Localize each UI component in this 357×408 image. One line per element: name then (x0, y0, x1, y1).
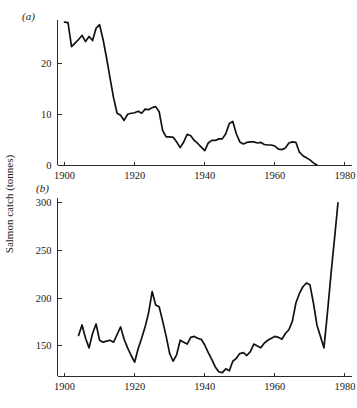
y-tick-label: 0 (46, 160, 51, 171)
figure-root: Salmon catch (tonnes) (a) 19001920194019… (0, 0, 357, 408)
panel-a-label: (a) (22, 10, 35, 23)
panel-a: (a) 1900192019401960198001020 (22, 10, 355, 181)
salmon-catch-figure: Salmon catch (tonnes) (a) 19001920194019… (0, 0, 357, 408)
y-tick-label: 150 (36, 340, 52, 351)
x-tick-label: 1980 (334, 170, 355, 181)
y-tick-label: 300 (36, 197, 52, 208)
x-tick-label: 1980 (334, 381, 355, 392)
panel-a-tick-labels: 1900192019401960198001020 (41, 58, 355, 181)
y-tick-label: 200 (36, 293, 52, 304)
panel-a-ticks (58, 63, 345, 165)
panel-b-axes (58, 198, 353, 377)
x-tick-label: 1960 (264, 381, 285, 392)
x-tick-label: 1920 (124, 381, 145, 392)
x-tick-label: 1900 (54, 170, 75, 181)
y-tick-label: 20 (41, 58, 52, 69)
panel-b: (b) 19001920194019601980150200250300 (36, 182, 356, 392)
x-tick-label: 1940 (194, 381, 215, 392)
x-tick-label: 1900 (54, 381, 75, 392)
x-tick-label: 1920 (124, 170, 145, 181)
x-tick-label: 1940 (194, 170, 215, 181)
x-tick-label: 1960 (264, 170, 285, 181)
y-tick-label: 250 (36, 245, 52, 256)
panel-a-series-line (65, 22, 317, 165)
panel-a-axes (58, 20, 353, 166)
y-tick-label: 10 (41, 109, 52, 120)
panel-b-tick-labels: 19001920194019601980150200250300 (36, 197, 356, 391)
panel-b-series-line (79, 203, 338, 373)
y-axis-title: Salmon catch (tonnes) (3, 154, 16, 253)
panel-b-label: (b) (36, 182, 49, 195)
